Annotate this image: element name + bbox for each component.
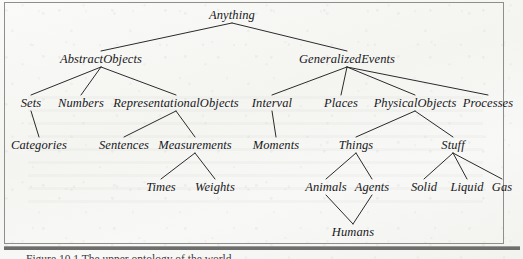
tree-node-generalized-events: GeneralizedEvents [299,53,395,66]
figure-caption: Figure 10.1 The upper ontology of the wo… [26,253,506,259]
tree-node-weights: Weights [195,181,235,194]
figure-page: AnythingAbstractObjectsGeneralizedEvents… [0,0,523,259]
figure-frame-box [4,2,504,244]
tree-node-abstract-objects: AbstractObjects [60,53,142,66]
tree-node-sets: Sets [21,97,42,110]
tree-node-representational-objects: RepresentationalObjects [113,97,238,110]
tree-node-physical-objects: PhysicalObjects [374,97,457,110]
tree-node-moments: Moments [253,139,300,152]
tree-node-places: Places [324,97,358,110]
tree-node-agents: Agents [355,181,390,194]
tree-node-gas: Gas [492,181,512,194]
section-divider-rule [4,246,520,250]
tree-node-processes: Processes [463,97,513,110]
tree-node-stuff: Stuff [441,139,464,152]
tree-node-numbers: Numbers [58,97,104,110]
tree-node-animals: Animals [305,181,347,194]
tree-node-anything: Anything [209,9,255,22]
tree-node-solid: Solid [411,181,437,194]
tree-node-times: Times [146,181,176,194]
tree-node-things: Things [339,139,374,152]
tree-node-interval: Interval [252,97,292,110]
tree-node-sentences: Sentences [99,139,149,152]
tree-node-categories: Categories [11,139,67,152]
tree-node-humans: Humans [332,226,374,239]
tree-node-measurements: Measurements [158,139,232,152]
tree-node-liquid: Liquid [450,181,483,194]
